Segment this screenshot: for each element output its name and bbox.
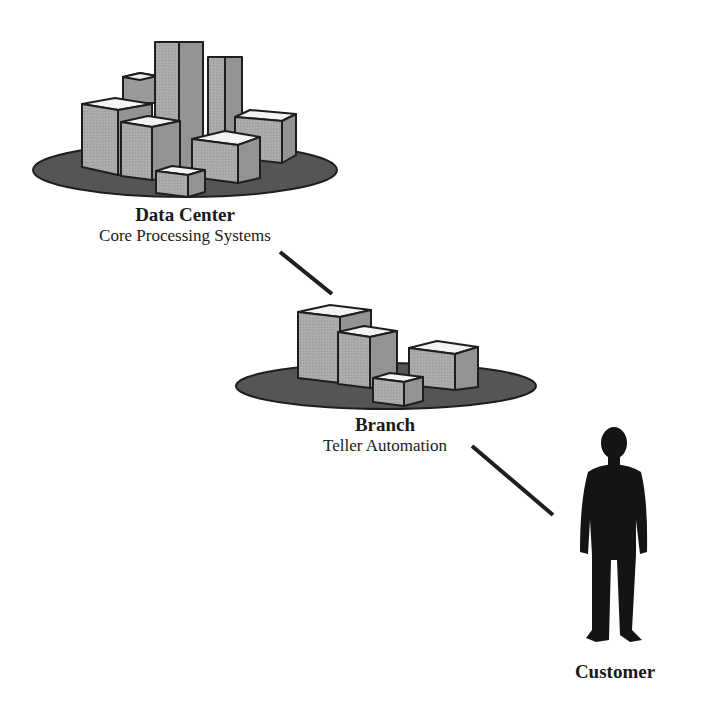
connection-datacenter-branch — [280, 252, 332, 294]
branch-icon — [236, 305, 536, 409]
customer-label: Customer — [560, 661, 670, 683]
data-center-title: Data Center — [85, 204, 285, 226]
connection-branch-customer — [472, 446, 553, 515]
data-center-subtitle: Core Processing Systems — [85, 226, 285, 246]
data-center-icon — [33, 42, 337, 197]
branch-label: Branch Teller Automation — [290, 414, 480, 456]
branch-title: Branch — [290, 414, 480, 436]
customer-title: Customer — [560, 661, 670, 683]
customer-person-icon — [580, 427, 647, 642]
data-center-label: Data Center Core Processing Systems — [85, 204, 285, 246]
branch-subtitle: Teller Automation — [290, 436, 480, 456]
diagram-canvas — [0, 0, 705, 717]
